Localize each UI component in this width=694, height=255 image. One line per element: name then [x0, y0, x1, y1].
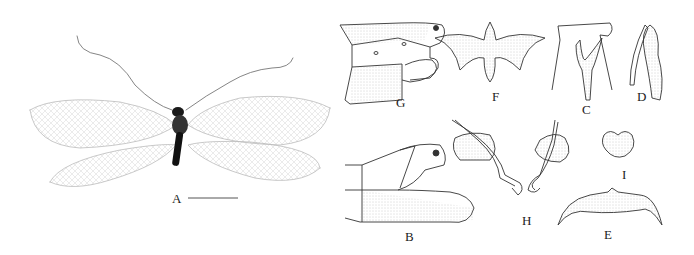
drawing-b [345, 144, 474, 222]
panel-label-c: C [582, 103, 591, 116]
lacewing-illustration [0, 0, 694, 255]
drawing-f [435, 22, 545, 82]
panel-label-g: G [396, 96, 405, 109]
drawing-d [630, 25, 662, 100]
habitus-specimen [30, 36, 330, 187]
panel-label-f: F [492, 90, 499, 103]
drawing-c [552, 23, 612, 100]
panel-label-i: I [622, 168, 626, 181]
panel-label-e: E [604, 228, 612, 241]
panel-label-d: D [637, 90, 646, 103]
figure-plate: A B C D E F G H I [0, 0, 694, 255]
panel-label-b: B [405, 230, 414, 243]
drawing-i [602, 132, 633, 158]
drawing-e [558, 188, 662, 225]
drawing-g [340, 23, 445, 104]
drawing-h [452, 120, 569, 195]
panel-label-h: H [522, 214, 531, 227]
panel-label-a: A [172, 192, 181, 205]
